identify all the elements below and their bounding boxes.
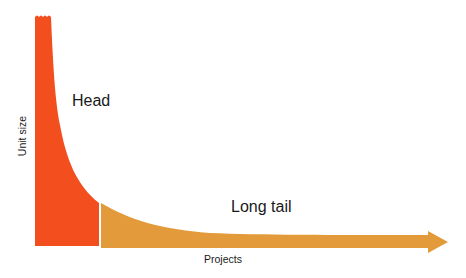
long-tail-diagram [0,0,466,278]
head-area [35,16,99,247]
x-axis-label: Projects [204,253,242,265]
head-label: Head [72,92,110,110]
long-tail-label: Long tail [231,198,292,216]
y-axis-label: Unit size [16,116,28,156]
